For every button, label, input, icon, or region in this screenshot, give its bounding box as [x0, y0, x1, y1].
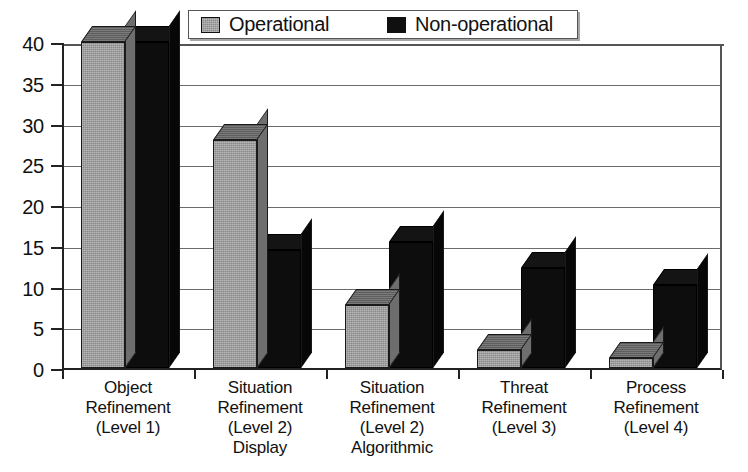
x-category-label-line: Process: [590, 378, 722, 398]
bar: [477, 350, 521, 368]
bar: [81, 42, 125, 368]
y-tick-label: 15: [22, 236, 44, 259]
x-category-label-line: Situation: [326, 378, 458, 398]
x-category-label-line: (Level 2): [194, 418, 326, 438]
x-category-label-line: (Level 1): [62, 418, 194, 438]
bar-front-face: [345, 305, 389, 368]
x-category-label-line: Refinement: [194, 398, 326, 418]
bar-side-face: [257, 108, 268, 368]
y-tick-label: 25: [22, 155, 44, 178]
bar-side-face: [565, 236, 576, 368]
bar-side-face: [301, 218, 312, 368]
x-category-label-line: (Level 4): [590, 418, 722, 438]
y-tick-label: 0: [33, 359, 44, 382]
y-axis: 4035302520151050: [0, 0, 44, 472]
x-axis-labels: ObjectRefinement(Level 1)SituationRefine…: [62, 378, 722, 472]
legend-item-non-operational[interactable]: Non-operational: [387, 13, 553, 36]
x-category-label-line: Threat: [458, 378, 590, 398]
x-category-label-line: (Level 3): [458, 418, 590, 438]
x-category-label: ThreatRefinement(Level 3): [458, 378, 590, 438]
bar: [213, 140, 257, 368]
x-category-label-line: Display: [194, 438, 326, 458]
x-category-label-line: Refinement: [458, 398, 590, 418]
bar-front-face: [81, 42, 125, 368]
y-tick-label: 10: [22, 277, 44, 300]
x-tick-mark: [722, 370, 724, 379]
x-category-label: SituationRefinement(Level 2)Display: [194, 378, 326, 458]
x-category-label-line: Situation: [194, 378, 326, 398]
legend-label-operational: Operational: [229, 13, 329, 36]
x-category-label: ProcessRefinement(Level 4): [590, 378, 722, 438]
bar-side-face: [433, 210, 444, 368]
bar-front-face: [609, 358, 653, 368]
x-category-label-line: Object: [62, 378, 194, 398]
black-swatch-icon: [387, 17, 406, 33]
y-tick-label: 40: [22, 33, 44, 56]
legend-item-operational[interactable]: Operational: [201, 13, 329, 36]
x-category-label-line: Refinement: [326, 398, 458, 418]
bar-side-face: [697, 253, 708, 368]
x-category-label: SituationRefinement(Level 2)Algorithmic: [326, 378, 458, 458]
bar-side-face: [169, 10, 180, 368]
y-tick-label: 30: [22, 114, 44, 137]
gray-swatch-icon: [201, 17, 220, 33]
plot-area: [62, 44, 722, 370]
y-tick-label: 35: [22, 73, 44, 96]
bar-chart: 4035302520151050 ObjectRefinement(Level …: [0, 0, 748, 472]
y-tick-label: 20: [22, 196, 44, 219]
bar: [345, 305, 389, 368]
x-category-label-line: Refinement: [62, 398, 194, 418]
x-category-label-line: (Level 2): [326, 418, 458, 438]
x-category-label-line: Refinement: [590, 398, 722, 418]
bar-side-face: [125, 10, 136, 368]
bar-side-face: [389, 274, 400, 368]
legend-label-non-operational: Non-operational: [415, 13, 553, 36]
x-category-label: ObjectRefinement(Level 1): [62, 378, 194, 438]
bar-front-face: [477, 350, 521, 368]
x-category-label-line: Algorithmic: [326, 438, 458, 458]
chart-legend: Operational Non-operational: [188, 10, 578, 39]
bar-front-face: [213, 140, 257, 368]
bar: [609, 358, 653, 368]
y-tick-label: 5: [33, 318, 44, 341]
